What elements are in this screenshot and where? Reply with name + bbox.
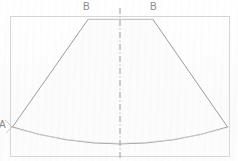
label-a-left: A: [0, 120, 6, 130]
label-b-right: B: [150, 2, 157, 12]
sector-diagram: [0, 0, 238, 161]
label-b-left: B: [83, 2, 90, 12]
figure-canvas: B B A: [0, 0, 238, 161]
